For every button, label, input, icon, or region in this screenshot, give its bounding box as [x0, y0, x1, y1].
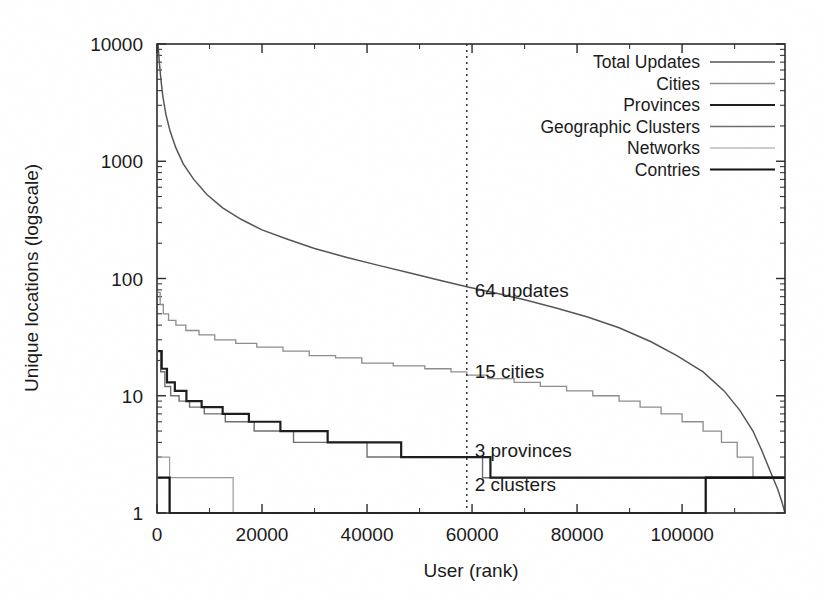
chart-annotation: 15 cities — [475, 361, 545, 382]
y-tick-label: 1 — [132, 503, 143, 524]
legend-label-cities: Cities — [656, 74, 700, 94]
y-tick-label: 10000 — [90, 34, 143, 55]
y-tick-label: 100 — [111, 269, 143, 290]
chart-figure: 020000400006000080000100000 110100100010… — [0, 0, 822, 601]
legend-label-provinces: Provinces — [623, 95, 700, 115]
chart-annotation: 3 provinces — [475, 440, 572, 461]
log-line-chart: 020000400006000080000100000 110100100010… — [0, 0, 822, 601]
legend-label-total-updates: Total Updates — [593, 52, 700, 72]
x-tick-label: 0 — [152, 524, 163, 545]
x-tick-label: 80000 — [551, 524, 604, 545]
y-tick-label: 1000 — [101, 151, 143, 172]
x-tick-label: 40000 — [341, 524, 394, 545]
legend-label-geographic-clusters: Geographic Clusters — [540, 117, 700, 137]
x-axis-title: User (rank) — [423, 560, 518, 581]
y-tick-label: 10 — [122, 386, 143, 407]
x-tick-label: 20000 — [236, 524, 289, 545]
x-tick-label: 60000 — [446, 524, 499, 545]
legend-label-contries: Contries — [635, 160, 700, 180]
y-axis-title: Unique locations (logscale) — [21, 164, 42, 392]
legend-label-networks: Networks — [627, 138, 700, 158]
chart-annotation: 64 updates — [475, 280, 569, 301]
chart-annotation: 2 clusters — [475, 474, 556, 495]
x-tick-label: 100000 — [650, 524, 713, 545]
